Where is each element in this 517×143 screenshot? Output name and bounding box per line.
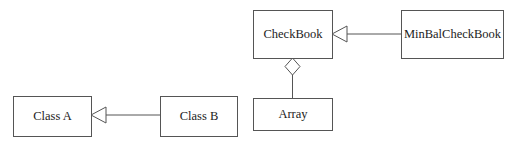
array-label: Array: [278, 107, 307, 122]
checkbook-box: CheckBook: [253, 10, 333, 59]
aggregation-checkbook-array: [285, 58, 300, 98]
class-b-label: Class B: [180, 109, 219, 124]
class-b-box: Class B: [160, 96, 238, 137]
class-a-label: Class A: [33, 109, 72, 124]
minbal-checkbook-label: MinBalCheckBook: [404, 27, 501, 42]
hollow-triangle-arrowhead-icon: [91, 107, 106, 123]
generalization-classb-to-classa: [91, 107, 160, 123]
hollow-diamond-icon: [285, 58, 300, 75]
minbal-checkbook-box: MinBalCheckBook: [401, 10, 504, 59]
checkbook-label: CheckBook: [263, 27, 322, 42]
generalization-minbal-to-checkbook: [332, 26, 401, 42]
array-box: Array: [253, 98, 333, 131]
hollow-triangle-arrowhead-icon: [332, 26, 347, 42]
class-a-box: Class A: [13, 96, 92, 137]
uml-diagram: Class A Class B CheckBook MinBalCheckBoo…: [0, 0, 517, 143]
